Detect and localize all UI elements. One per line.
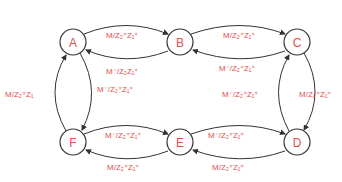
svg-text:A: A xyxy=(69,36,77,50)
edge-e-to-f xyxy=(86,150,168,159)
label-e-to-f: M/Z₂⁺Z₁⁺ xyxy=(107,163,139,172)
edge-d-to-e xyxy=(193,150,285,159)
svg-text:B: B xyxy=(176,36,184,50)
edge-f-to-a xyxy=(55,55,66,131)
edge-d-to-c xyxy=(279,55,290,131)
node-e: E xyxy=(167,129,193,155)
label-b-to-c: M/Z₂⁺Z₁⁺ xyxy=(223,31,255,40)
svg-text:C: C xyxy=(293,36,302,50)
edge-b-to-a xyxy=(86,50,168,59)
label-e-to-d: M⁻/Z₂⁺Z₁⁺ xyxy=(208,131,244,140)
label-f-to-a: M/Z₂⁺Z₁ xyxy=(5,90,34,99)
svg-text:F: F xyxy=(69,136,76,150)
label-a-to-b: M/Z₂⁺Z₁⁺ xyxy=(106,31,138,40)
node-f: F xyxy=(60,129,86,155)
label-b-to-a: M⁻/Z₂Z₁⁺ xyxy=(106,67,138,76)
node-b: B xyxy=(167,29,193,55)
label-d-to-c: M⁻/Z₂⁺Z₁⁺ xyxy=(222,90,258,99)
edge-a-to-f xyxy=(80,53,92,130)
node-a: A xyxy=(60,29,86,55)
label-c-to-b: M⁻/Z₂⁺Z₁⁺ xyxy=(219,64,255,73)
edge-c-to-b xyxy=(193,50,285,59)
node-d: D xyxy=(284,129,310,155)
label-d-to-e: M/Z₂⁺Z₁⁺ xyxy=(212,163,244,172)
svg-text:D: D xyxy=(293,136,302,150)
svg-text:E: E xyxy=(176,136,184,150)
label-c-to-d: M/Z₂⁺Z₁⁺ xyxy=(299,90,331,99)
label-f-to-e: M⁻/Z₂⁺Z₁⁺ xyxy=(105,131,141,140)
label-a-to-f: M⁻/Z₂⁺Z₁⁺ xyxy=(97,85,133,94)
state-diagram: A B C D E F M/Z₂⁺Z₁⁺ M⁻/Z₂Z₁⁺ M/Z₂⁺Z₁⁺ M… xyxy=(0,0,342,182)
node-c: C xyxy=(284,29,310,55)
